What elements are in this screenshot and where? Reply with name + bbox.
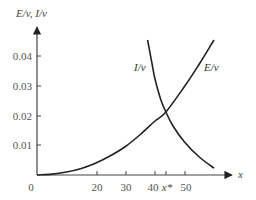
x-tick-label-xstar: x* [161,181,173,193]
y-tick-label: 0.02 [13,110,32,122]
e-over-v-curve [37,40,214,175]
x-tick-label: 0 [28,181,34,193]
x-axis-label: x [237,168,243,180]
chart: E/v, I/v x 0.04 0.03 0.02 0.01 0 20 30 4… [0,0,256,200]
y-tick-label: 0.03 [13,80,33,92]
y-axis-label: E/v, I/v [15,7,47,19]
i-over-v-curve [148,40,214,168]
x-tick-label: 20 [92,181,104,193]
x-tick-label: 50 [181,181,193,193]
x-tick-label: 40 [148,181,160,193]
y-tick-label: 0.01 [13,139,32,151]
e-over-v-label: E/v [203,61,219,73]
y-tick-label: 0.04 [13,50,33,62]
i-over-v-label: I/v [133,61,146,73]
x-tick-label: 30 [121,181,133,193]
